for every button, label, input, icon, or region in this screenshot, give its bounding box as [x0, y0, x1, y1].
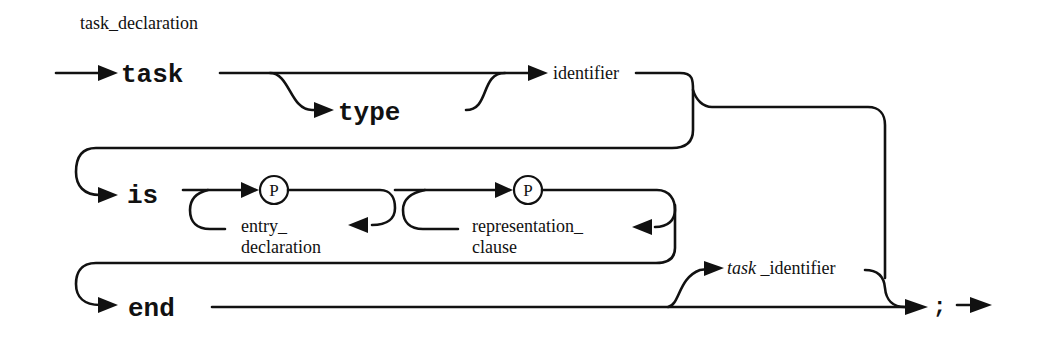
keyword-task: task [121, 60, 183, 90]
nonterminal-identifier: identifier [553, 63, 619, 83]
rail-row2-out [76, 205, 675, 305]
keyword-end: end [128, 294, 175, 324]
rail-identifier-out [76, 73, 693, 195]
svg-text:P: P [269, 181, 278, 200]
rail-p1-out [288, 190, 395, 225]
rail-type-return [466, 73, 505, 110]
arrow-to-semicolon-icon [905, 299, 928, 315]
nonterminal-entry-declaration-2: declaration [241, 237, 321, 257]
keyword-semicolon: ; [933, 295, 946, 320]
arrow-entry-repeat-icon [348, 217, 368, 233]
arrow-to-p1-icon [241, 182, 259, 198]
keyword-type: type [338, 98, 400, 128]
entry-arrow-icon [56, 65, 118, 81]
rail-identifier-to-end [693, 90, 885, 278]
nonterminal-task-identifier: task _identifier [727, 258, 835, 278]
rail-rep-skip [403, 190, 458, 229]
rail-type-branch [270, 73, 318, 110]
arrow-rep-repeat-icon [632, 219, 652, 235]
nonterminal-entry-declaration-1: entry_ [241, 216, 288, 236]
nonterminal-representation-clause-2: clause [472, 237, 517, 257]
arrow-to-end-icon [98, 297, 118, 313]
rail-task-identifier-branch [668, 269, 708, 307]
svg-text:P: P [523, 181, 532, 200]
pragma-p1: P [260, 176, 288, 204]
arrow-to-p2-icon [495, 182, 513, 198]
pragma-p2: P [514, 176, 542, 204]
arrow-to-is-icon [98, 187, 118, 203]
nonterminal-representation-clause-1: representation_ [472, 216, 584, 236]
arrow-to-task-identifier-icon [704, 261, 724, 276]
arrow-to-identifier-icon [528, 65, 548, 81]
keyword-is: is [127, 181, 158, 211]
arrow-to-type-icon [314, 102, 334, 118]
diagram-title: task_declaration [80, 13, 198, 33]
syntax-diagram: task_declaration task identifier type is… [0, 0, 1044, 339]
exit-arrow-icon [957, 297, 992, 313]
rail-entry-skip [190, 190, 225, 229]
